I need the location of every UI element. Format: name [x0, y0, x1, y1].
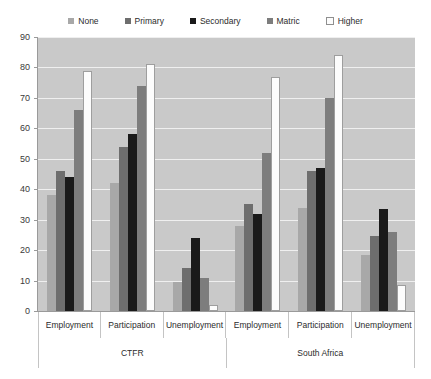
y-tick-label-40: 40 [20, 185, 30, 194]
bar-higher [271, 77, 280, 311]
y-tick-label-60: 60 [20, 124, 30, 133]
bar-matric [262, 153, 271, 311]
y-tick-label-30: 30 [20, 215, 30, 224]
bar-primary [307, 171, 316, 311]
bar-none [235, 226, 244, 311]
legend-item-secondary: Secondary [190, 17, 241, 26]
legend-label-higher: Higher [338, 17, 363, 26]
y-tick-label-50: 50 [20, 154, 30, 163]
bar-group [227, 37, 290, 311]
x-axis-category-label: Participation [101, 312, 164, 338]
legend-label-primary: Primary [135, 17, 164, 26]
bar-matric [388, 232, 397, 311]
bar-group [289, 37, 352, 311]
bar-primary [370, 236, 379, 311]
x-axis-group-labels: CTFRSouth Africa [38, 338, 415, 368]
y-axis: 9080706050403020100 [0, 37, 38, 311]
legend-item-higher: Higher [326, 17, 363, 26]
bar-none [173, 282, 182, 311]
bar-matric [200, 278, 209, 311]
bar-group [352, 37, 415, 311]
x-axis-category-labels: EmploymentParticipationUnemploymentEmplo… [38, 312, 415, 338]
x-axis-category-label: Employment [227, 312, 290, 338]
bar-none [47, 195, 56, 311]
x-axis-category-label: Unemployment [352, 312, 415, 338]
bar-higher [397, 285, 406, 311]
y-tick-label-90: 90 [20, 33, 30, 42]
bar-primary [182, 268, 191, 311]
bar-secondary [379, 209, 388, 311]
bar-secondary [191, 238, 200, 311]
legend-item-primary: Primary [125, 17, 164, 26]
bar-matric [137, 86, 146, 311]
bar-higher [334, 55, 343, 311]
y-tick-label-0: 0 [25, 307, 30, 316]
bar-none [361, 255, 370, 311]
bar-secondary [65, 177, 74, 311]
x-axis-category-label: Employment [38, 312, 101, 338]
legend-swatch-matric [267, 18, 273, 24]
legend-swatch-primary [125, 18, 131, 24]
legend-label-matric: Matric [277, 17, 300, 26]
bar-none [110, 183, 119, 311]
y-tick-label-70: 70 [20, 93, 30, 102]
bar-primary [244, 204, 253, 311]
bar-none [298, 208, 307, 312]
bar-primary [119, 147, 128, 311]
y-tick-label-80: 80 [20, 63, 30, 72]
legend-label-secondary: Secondary [200, 17, 241, 26]
legend-item-none: None [68, 17, 98, 26]
bar-secondary [128, 134, 137, 311]
legend-item-matric: Matric [267, 17, 300, 26]
bar-higher [83, 71, 92, 312]
y-tick-label-20: 20 [20, 246, 30, 255]
bar-group [38, 37, 101, 311]
bar-higher [146, 64, 155, 311]
bar-primary [56, 171, 65, 311]
legend-swatch-secondary [190, 18, 196, 24]
chart-legend: None Primary Secondary Matric Higher [0, 12, 431, 30]
bar-group [164, 37, 227, 311]
bar-matric [74, 110, 83, 311]
x-axis-category-label: Participation [289, 312, 352, 338]
bar-secondary [316, 168, 325, 311]
bars-layer [38, 37, 415, 311]
y-tick-label-10: 10 [20, 276, 30, 285]
legend-swatch-none [68, 18, 74, 24]
legend-swatch-higher [326, 17, 334, 25]
x-axis-group-label: South Africa [227, 338, 416, 368]
x-axis-group-label: CTFR [38, 338, 227, 368]
x-axis-category-label: Unemployment [164, 312, 227, 338]
bar-secondary [253, 214, 262, 311]
bar-chart: None Primary Secondary Matric Higher 908… [0, 0, 431, 379]
legend-label-none: None [78, 17, 98, 26]
bar-matric [325, 98, 334, 311]
bar-group [101, 37, 164, 311]
